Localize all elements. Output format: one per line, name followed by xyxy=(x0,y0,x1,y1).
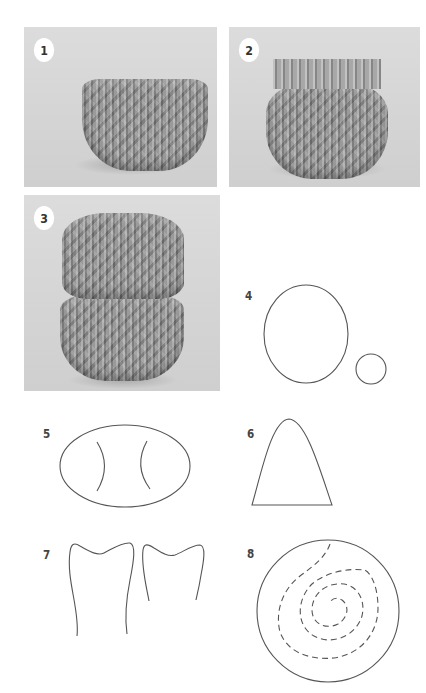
step-6-diagram xyxy=(252,419,332,505)
dashed-spiral-line xyxy=(278,544,378,658)
large-oval-shape xyxy=(264,285,348,383)
right-inner-curve xyxy=(141,441,150,489)
step-7-diagram xyxy=(69,543,204,636)
tooth-shape-right xyxy=(143,545,204,601)
step-8-diagram xyxy=(257,540,399,682)
step-4-diagram xyxy=(264,285,386,384)
small-circle-shape xyxy=(356,354,386,384)
horizontal-oval-shape xyxy=(60,425,190,507)
left-inner-curve xyxy=(97,442,105,491)
step-5-diagram xyxy=(60,425,190,507)
step-diagrams xyxy=(0,0,426,693)
cone-shape xyxy=(252,419,332,505)
tooth-shape-left xyxy=(69,543,134,636)
